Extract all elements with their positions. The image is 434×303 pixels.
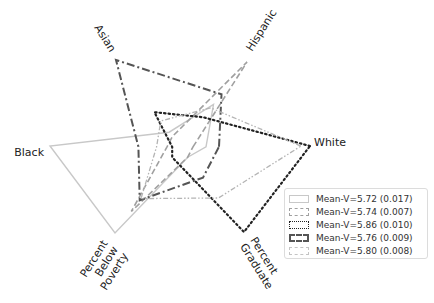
legend-label: Mean-V=5.72 (0.017) xyxy=(316,194,413,204)
legend-swatch-dotted xyxy=(289,221,309,229)
radar-series-3 xyxy=(116,60,222,200)
axis-label-white: White xyxy=(314,136,346,149)
legend-swatch-dashdot xyxy=(289,234,309,242)
legend-item: Mean-V=5.80 (0.008) xyxy=(289,244,413,257)
radar-series-group xyxy=(50,60,310,233)
legend-item: Mean-V=5.86 (0.010) xyxy=(289,218,413,231)
legend-label: Mean-V=5.74 (0.007) xyxy=(316,207,413,217)
legend-swatch-dashed xyxy=(289,208,309,216)
legend-label: Mean-V=5.76 (0.009) xyxy=(316,233,413,243)
axis-label-hispanic: Hispanic xyxy=(244,7,280,54)
legend-item: Mean-V=5.76 (0.009) xyxy=(289,231,413,244)
axis-label-percent-graduate: PercentGraduate xyxy=(237,235,286,292)
legend-swatch-dashdotdot xyxy=(289,247,309,255)
legend-swatch-solid xyxy=(289,195,309,203)
legend-label: Mean-V=5.80 (0.008) xyxy=(316,246,413,256)
axis-label-black: Black xyxy=(14,146,44,159)
axis-label-percent-below-poverty: PercentBelowPoverty xyxy=(77,237,131,292)
legend-item: Mean-V=5.74 (0.007) xyxy=(289,205,413,218)
legend-item: Mean-V=5.72 (0.017) xyxy=(289,192,413,205)
axis-label-asian: Asian xyxy=(92,22,119,54)
legend-label: Mean-V=5.86 (0.010) xyxy=(316,220,413,230)
legend: Mean-V=5.72 (0.017) Mean-V=5.74 (0.007) … xyxy=(284,188,428,259)
